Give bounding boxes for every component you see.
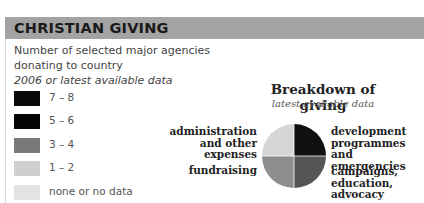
legend-label: 3 – 4 bbox=[49, 138, 74, 150]
section-header: CHRISTIAN GIVING bbox=[5, 17, 424, 39]
legend-swatch bbox=[14, 161, 40, 176]
pie-chart-subtitle: latest available data bbox=[248, 98, 398, 109]
section-title: CHRISTIAN GIVING bbox=[14, 20, 169, 36]
pie-label-campaigns: campaigns, education, advocacy bbox=[331, 166, 398, 201]
left-border-rule bbox=[5, 39, 6, 203]
pie-chart bbox=[262, 124, 326, 188]
legend-label: 1 – 2 bbox=[49, 161, 74, 173]
legend-swatch bbox=[14, 91, 40, 106]
legend-title-line1: Number of selected major agencies bbox=[14, 43, 210, 58]
legend-note: 2006 or latest available data bbox=[14, 73, 210, 88]
map-legend-title: Number of selected major agencies donati… bbox=[14, 43, 210, 88]
pie-slice-campaigns bbox=[294, 156, 326, 188]
legend-label: 7 – 8 bbox=[49, 91, 74, 103]
pie-slice-administration bbox=[262, 124, 294, 156]
pie-label-fundraising: fundraising bbox=[166, 165, 257, 177]
legend-label: none or no data bbox=[49, 185, 133, 197]
pie-label-administration: administration and other expenses bbox=[166, 126, 257, 161]
pie-slice-development bbox=[294, 124, 326, 156]
legend-swatch bbox=[14, 114, 40, 129]
legend-label: 5 – 6 bbox=[49, 114, 74, 126]
legend-title-line2: donating to country bbox=[14, 58, 210, 73]
legend-swatch bbox=[14, 185, 40, 200]
legend-swatch bbox=[14, 138, 40, 153]
pie-slice-fundraising bbox=[262, 156, 294, 188]
